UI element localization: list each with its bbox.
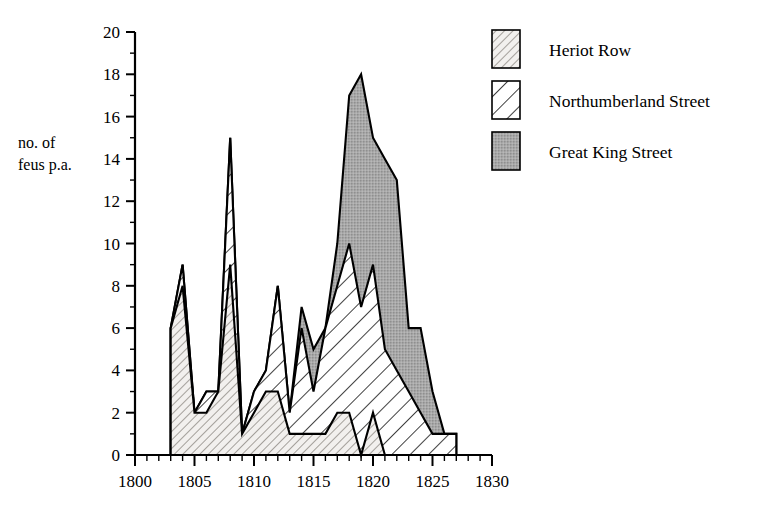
y-tick-label: 0	[112, 446, 121, 465]
legend-swatch	[492, 132, 520, 170]
legend-label: Great King Street	[549, 142, 673, 162]
legend-label: Northumberland Street	[549, 91, 710, 111]
x-tick-label: 1815	[297, 472, 331, 491]
chart-container: 1800180518101815182018251830 02468101214…	[0, 0, 768, 513]
legend-label: Heriot Row	[549, 40, 632, 60]
y-axis-title-line1: no. of	[18, 134, 56, 151]
y-tick-label: 6	[112, 319, 121, 338]
legend-swatch	[492, 81, 520, 119]
y-tick-label: 10	[103, 235, 120, 254]
y-tick-label: 20	[103, 23, 120, 42]
x-tick-label: 1805	[178, 472, 212, 491]
y-tick-label: 12	[103, 192, 120, 211]
y-tick-label: 16	[103, 108, 120, 127]
x-tick-label: 1830	[475, 472, 509, 491]
feus-area-chart: 1800180518101815182018251830 02468101214…	[0, 0, 768, 513]
y-axis-title-line2: feus p.a.	[18, 156, 72, 174]
y-tick-label: 14	[103, 150, 121, 169]
y-tick-label: 8	[112, 277, 121, 296]
legend-swatch	[492, 30, 520, 68]
x-tick-label: 1800	[118, 472, 152, 491]
x-tick-label: 1825	[416, 472, 450, 491]
y-tick-label: 4	[112, 361, 121, 380]
x-tick-label: 1820	[356, 472, 390, 491]
x-tick-label: 1810	[237, 472, 271, 491]
y-tick-label: 2	[112, 404, 121, 423]
y-tick-label: 18	[103, 65, 120, 84]
